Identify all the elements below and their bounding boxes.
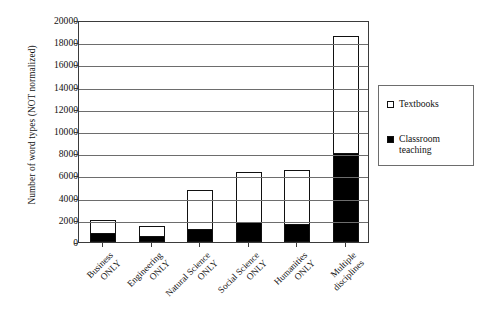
legend-label-textbooks: Textbooks <box>399 98 439 109</box>
y-tick-label: 2000 <box>34 216 78 226</box>
y-tick-label: 16000 <box>34 61 78 71</box>
gridline <box>79 89 368 90</box>
gridline <box>79 155 368 156</box>
bar-segment-classroom-teaching[interactable] <box>284 224 310 242</box>
y-axis: 0200040006000800010000120001400016000180… <box>28 21 78 243</box>
y-tick-label: 12000 <box>34 105 78 115</box>
bar-chart: Number of word types (NOT normalized) 02… <box>0 0 479 317</box>
y-tick-label: 20000 <box>34 16 78 26</box>
legend-item-textbooks: Textbooks <box>387 98 439 109</box>
bar-group[interactable] <box>284 20 310 242</box>
gridline <box>79 66 368 67</box>
y-tick-label: 18000 <box>34 38 78 48</box>
bar-segment-classroom-teaching[interactable] <box>236 222 262 242</box>
gridline <box>79 111 368 112</box>
y-tick-label: 4000 <box>34 194 78 204</box>
x-tick-mark <box>199 243 200 247</box>
bar-group[interactable] <box>187 20 213 242</box>
y-tick-label: 14000 <box>34 83 78 93</box>
gridline <box>79 200 368 201</box>
x-tick-mark <box>345 243 346 247</box>
gridline <box>79 222 368 223</box>
bar-group[interactable] <box>90 20 116 242</box>
legend-swatch-textbooks-icon <box>387 101 394 108</box>
bar-group[interactable] <box>139 20 165 242</box>
bars-layer <box>79 22 368 242</box>
x-tick-mark <box>296 243 297 247</box>
gridline <box>79 44 368 45</box>
legend: Textbooks Classroom teaching <box>378 85 474 166</box>
legend-swatch-classroom-teaching-icon <box>387 136 394 143</box>
bar-group[interactable] <box>333 20 359 242</box>
plot-area <box>78 21 369 243</box>
bar-segment-classroom-teaching[interactable] <box>187 229 213 242</box>
x-tick-mark <box>248 243 249 247</box>
bar-segment-classroom-teaching[interactable] <box>139 236 165 242</box>
bar-segment-classroom-teaching[interactable] <box>90 233 116 242</box>
x-tick-mark <box>151 243 152 247</box>
x-tick-mark <box>102 243 103 247</box>
y-tick-label: 10000 <box>34 127 78 137</box>
bar-segment-classroom-teaching[interactable] <box>333 153 359 242</box>
gridline <box>79 133 368 134</box>
gridline <box>79 177 368 178</box>
y-tick-label: 0 <box>34 238 78 248</box>
y-tick-label: 6000 <box>34 172 78 182</box>
y-tick-label: 8000 <box>34 149 78 159</box>
bar-group[interactable] <box>236 20 262 242</box>
legend-label-classroom-teaching: Classroom teaching <box>399 133 469 156</box>
y-tick-mark <box>74 243 78 244</box>
legend-item-classroom-teaching: Classroom teaching <box>387 133 469 156</box>
